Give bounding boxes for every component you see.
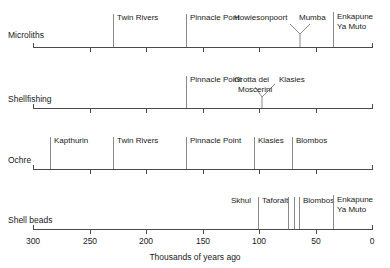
event-label-klasies-shellfishing: Klasies: [279, 75, 305, 85]
event-marker-enkapune-ya-muto-microliths: [333, 12, 334, 47]
x-tick-label-150: 150: [188, 236, 218, 246]
event-marker-klasies-ochre: [254, 137, 255, 169]
row-label-ochre: Ochre: [8, 155, 31, 165]
event-label-mumba: Mumba: [299, 13, 326, 23]
x-axis-title: Thousands of years ago: [0, 252, 390, 262]
timeline-figure: Microliths Twin Rivers Pinnacle Pont How…: [0, 0, 390, 268]
event-label-grotta-line2: Moscerini: [238, 85, 272, 95]
event-label-skhul: Skhul: [231, 196, 251, 206]
event-label-enkapune-line1-microliths: Enkapune: [337, 12, 373, 22]
event-marker-blombos-a: [294, 197, 295, 229]
event-label-enkapune-line1-shell-beads: Enkapune: [337, 195, 373, 205]
event-label-grotta-line1: Grotta dei: [234, 75, 269, 85]
event-label-enkapune-line2-microliths: Ya Muto: [337, 22, 366, 32]
event-marker-enkapune-ya-muto-shell-beads: [333, 195, 334, 229]
event-marker-kapthurin: [50, 137, 51, 169]
axis-tick-100-shell-beads: [259, 230, 260, 234]
event-marker-pinnacle-point-ochre: [186, 137, 187, 169]
event-marker-twin-rivers-ochre: [113, 137, 114, 169]
axis-tick-250-shell-beads: [90, 230, 91, 234]
event-label-enkapune-line2-shell-beads: Ya Muto: [337, 205, 366, 215]
x-tick-label-300: 300: [18, 236, 48, 246]
event-label-kapthurin: Kapthurin: [54, 136, 88, 146]
x-tick-label-0: 0: [357, 236, 387, 246]
axis-tick-50-shell-beads: [316, 230, 317, 234]
event-label-klasies-ochre: Klasies: [258, 136, 284, 146]
axis-tick-100-ochre: [259, 170, 260, 174]
axis-tick-150-shell-beads: [203, 230, 204, 234]
event-label-blombos-shell-beads: Blombos: [303, 196, 334, 206]
axis-tick-150-ochre: [203, 170, 204, 174]
event-connector-grotta-klasies: [0, 60, 390, 115]
event-marker-skhul: [258, 197, 259, 229]
event-marker-blombos-ochre: [292, 137, 293, 169]
axis-endcap-right-ochre: [372, 165, 373, 170]
event-label-twin-rivers-ochre: Twin Rivers: [117, 136, 158, 146]
axis-tick-200-shell-beads: [146, 230, 147, 234]
event-marker-blombos-b: [299, 197, 300, 229]
axis-endcap-left-ochre: [33, 165, 34, 170]
axis-endcap-right-shell-beads: [372, 225, 373, 230]
event-label-taforalt: Taforalt: [262, 196, 288, 206]
x-tick-label-100: 100: [244, 236, 274, 246]
axis-tick-200-ochre: [146, 170, 147, 174]
x-tick-label-50: 50: [301, 236, 331, 246]
axis-tick-250-ochre: [90, 170, 91, 174]
event-label-howiesonpoort: Howiesonpoort: [234, 13, 287, 23]
event-label-pinnacle-point-ochre: Pinnacle Point: [190, 136, 241, 146]
row-label-shell-beads: Shell beads: [8, 215, 52, 225]
x-tick-label-200: 200: [131, 236, 161, 246]
x-tick-label-250: 250: [75, 236, 105, 246]
axis-tick-50-ochre: [316, 170, 317, 174]
event-connector-howiesonpoort-mumba: [0, 0, 390, 60]
event-label-blombos-ochre: Blombos: [296, 136, 327, 146]
axis-endcap-left-shell-beads: [33, 225, 34, 230]
